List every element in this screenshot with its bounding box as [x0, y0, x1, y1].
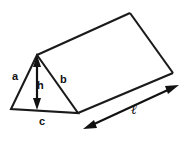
label-side-a: a [12, 71, 18, 82]
label-length-l: ℓ [131, 103, 137, 117]
label-side-b: b [60, 74, 67, 85]
length-arrowhead-right [165, 85, 179, 94]
triangular-prism-figure: a h b c ℓ [0, 0, 191, 141]
length-arrowhead-left [83, 120, 97, 129]
prism-drawing [0, 0, 191, 141]
label-height-h: h [37, 80, 44, 91]
label-base-c: c [39, 116, 45, 127]
